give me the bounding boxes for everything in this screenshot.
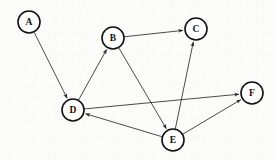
graph-node-b[interactable]: B <box>102 27 124 49</box>
graph-node-f[interactable]: F <box>241 82 263 104</box>
graph-canvas: ABCDEF <box>0 0 276 160</box>
graph-node-label-e: E <box>170 135 176 145</box>
graph-edge-e-to-c <box>175 42 193 129</box>
graph-node-d[interactable]: D <box>62 99 84 121</box>
graph-edge-d-to-f <box>84 94 238 109</box>
graph-node-a[interactable]: A <box>18 11 40 33</box>
edge-layer <box>34 30 241 136</box>
graph-edge-d-to-b <box>79 50 107 100</box>
graph-node-label-f: F <box>249 88 255 98</box>
graph-edge-b-to-c <box>124 30 182 36</box>
graph-edge-e-to-d <box>86 114 162 137</box>
graph-node-label-a: A <box>26 17 33 27</box>
graph-node-label-c: C <box>193 24 200 34</box>
graph-node-label-d: D <box>70 105 77 115</box>
directed-graph: ABCDEF <box>0 0 276 160</box>
graph-node-label-b: B <box>110 33 117 43</box>
graph-edge-b-to-e <box>119 48 166 129</box>
graph-node-c[interactable]: C <box>185 18 207 40</box>
graph-edge-e-to-f <box>183 100 241 134</box>
graph-edge-a-to-d <box>34 32 67 98</box>
graph-node-e[interactable]: E <box>162 129 184 151</box>
